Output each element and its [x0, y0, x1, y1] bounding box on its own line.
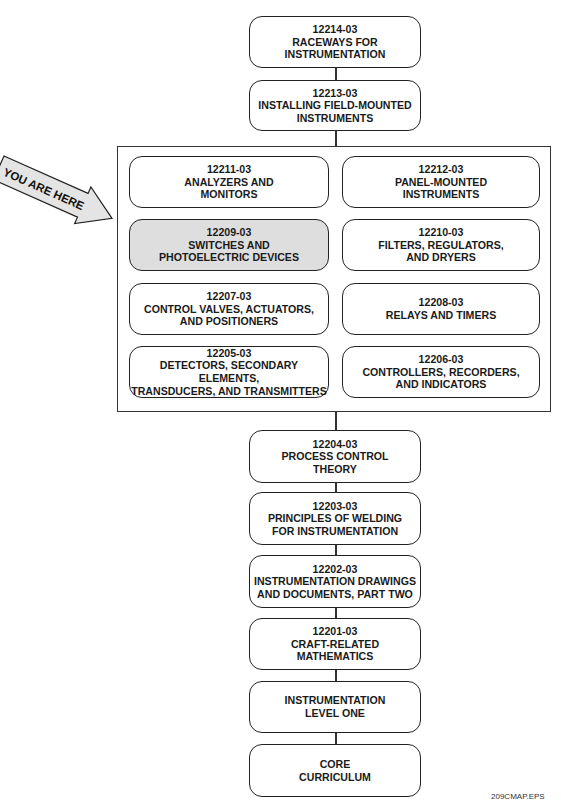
- course-title-line: FILTERS, REGULATORS,: [378, 239, 503, 252]
- course-title-line: CONTROLLERS, RECORDERS,: [362, 366, 519, 379]
- course-box-12213: 12213-03 INSTALLING FIELD-MOUNTED INSTRU…: [249, 80, 421, 131]
- course-code: 12212-03: [419, 163, 464, 176]
- course-title-line: CURRICULUM: [299, 771, 371, 784]
- course-code: 12209-03: [207, 226, 252, 239]
- course-box-12208: 12208-03 RELAYS AND TIMERS: [342, 283, 540, 335]
- course-title-line: CORE: [320, 758, 351, 771]
- course-box-level-one: INSTRUMENTATION LEVEL ONE: [249, 681, 421, 733]
- connector-line: [335, 483, 337, 492]
- course-code: 12211-03: [207, 163, 251, 176]
- course-code: 12203-03: [313, 500, 358, 513]
- course-code: 12202-03: [313, 563, 358, 576]
- connector-line: [335, 670, 337, 681]
- course-box-12207: 12207-03 CONTROL VALVES, ACTUATORS, AND …: [129, 283, 329, 335]
- course-box-12210: 12210-03 FILTERS, REGULATORS, AND DRYERS: [342, 219, 540, 271]
- course-title-line: INSTRUMENTATION: [285, 48, 386, 61]
- course-box-12205: 12205-03 DETECTORS, SECONDARY ELEMENTS, …: [129, 346, 329, 398]
- connector-line: [335, 131, 337, 146]
- course-title-line: SWITCHES AND: [188, 239, 269, 252]
- course-title-line: PHOTOELECTRIC DEVICES: [159, 251, 299, 264]
- you-are-here-arrow-icon: YOU ARE HERE: [0, 140, 135, 250]
- connector-line: [335, 412, 337, 430]
- course-title-line: INSTRUMENTATION: [285, 694, 386, 707]
- course-code: 12207-03: [207, 290, 252, 303]
- course-code: 12208-03: [419, 296, 464, 309]
- course-title-line: AND DRYERS: [406, 251, 476, 264]
- course-title-line: INSTALLING FIELD-MOUNTED: [258, 99, 411, 112]
- course-title-line: RELAYS AND TIMERS: [386, 309, 496, 322]
- course-title-line: INSTRUMENTS: [403, 188, 480, 201]
- connector-line: [335, 545, 337, 555]
- course-title-line: THEORY: [313, 463, 357, 476]
- course-box-12209-current: 12209-03 SWITCHES AND PHOTOELECTRIC DEVI…: [129, 219, 329, 271]
- course-box-12212: 12212-03 PANEL-MOUNTED INSTRUMENTS: [342, 156, 540, 208]
- course-box-12206: 12206-03 CONTROLLERS, RECORDERS, AND IND…: [342, 346, 540, 398]
- course-title-line: PANEL-MOUNTED: [395, 176, 487, 189]
- course-code: 12204-03: [313, 438, 358, 451]
- course-title-line: RACEWAYS FOR: [292, 36, 378, 49]
- course-title-line: PROCESS CONTROL: [281, 450, 388, 463]
- course-title-line: INSTRUMENTATION DRAWINGS: [254, 575, 416, 588]
- course-title-line: CONTROL VALVES, ACTUATORS,: [144, 303, 314, 316]
- course-code: 12206-03: [419, 353, 464, 366]
- course-box-12201: 12201-03 CRAFT-RELATED MATHEMATICS: [249, 618, 421, 670]
- connector-line: [335, 608, 337, 618]
- course-title-line: MONITORS: [201, 188, 258, 201]
- course-code: 12205-03: [207, 347, 252, 360]
- connector-line: [335, 68, 337, 80]
- course-code: 12214-03: [313, 23, 358, 36]
- course-title-line: MATHEMATICS: [297, 650, 374, 663]
- course-title-line: INSTRUMENTS: [297, 112, 374, 125]
- course-title-line: AND INDICATORS: [396, 378, 487, 391]
- course-box-12202: 12202-03 INSTRUMENTATION DRAWINGS AND DO…: [249, 555, 421, 608]
- course-title-line: FOR INSTRUMENTATION: [272, 525, 398, 538]
- figure-file-caption: 209CMAP.EPS: [491, 792, 545, 801]
- connector-line: [335, 733, 337, 744]
- course-title-line: PRINCIPLES OF WELDING: [268, 512, 402, 525]
- course-code: 12210-03: [419, 226, 464, 239]
- course-code: 12201-03: [313, 625, 358, 638]
- course-box-core-curriculum: CORE CURRICULUM: [249, 744, 421, 797]
- course-title-line: LEVEL ONE: [305, 707, 365, 720]
- course-title-line: CRAFT-RELATED: [291, 638, 379, 651]
- course-title-line: DETECTORS, SECONDARY ELEMENTS,: [130, 359, 328, 384]
- course-title-line: TRANSDUCERS, AND TRANSMITTERS: [131, 385, 327, 398]
- course-box-12211: 12211-03 ANALYZERS AND MONITORS: [129, 156, 329, 208]
- course-code: 12213-03: [313, 87, 358, 100]
- course-title-line: ANALYZERS AND: [184, 176, 273, 189]
- course-title-line: AND POSITIONERS: [180, 315, 278, 328]
- course-box-12203: 12203-03 PRINCIPLES OF WELDING FOR INSTR…: [249, 492, 421, 545]
- course-title-line: AND DOCUMENTS, PART TWO: [257, 588, 413, 601]
- course-box-12204: 12204-03 PROCESS CONTROL THEORY: [249, 430, 421, 483]
- course-box-12214: 12214-03 RACEWAYS FOR INSTRUMENTATION: [249, 16, 421, 68]
